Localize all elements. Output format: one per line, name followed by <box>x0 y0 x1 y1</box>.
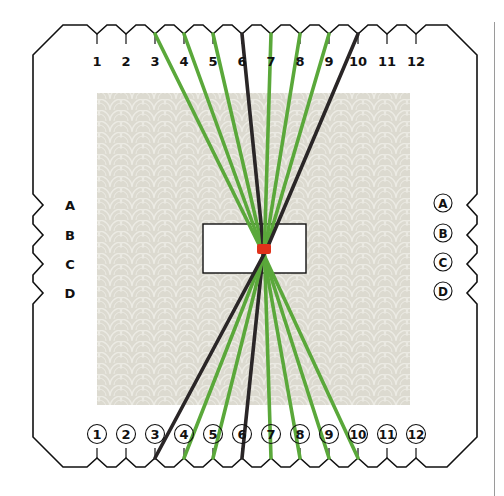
top-slot-label-9: 9 <box>324 54 333 69</box>
left-notch-label-C: C <box>65 257 75 272</box>
bottom-slot-label-12: 12 <box>408 428 425 442</box>
bottom-slot-label-4: 4 <box>179 427 188 442</box>
top-slot-label-7: 7 <box>266 54 275 69</box>
right-notch-labels: ABCD <box>434 194 452 300</box>
top-slot-label-11: 11 <box>378 54 396 69</box>
bottom-slot-label-7: 7 <box>266 427 275 442</box>
top-slot-label-6: 6 <box>237 54 246 69</box>
center-tie <box>257 244 271 254</box>
right-notch-label-B: B <box>438 227 447 241</box>
top-slot-label-2: 2 <box>121 54 130 69</box>
bottom-slot-label-6: 6 <box>237 427 246 442</box>
top-slot-label-3: 3 <box>150 54 159 69</box>
top-slot-labels: 123456789101112 <box>92 54 425 69</box>
top-slot-label-12: 12 <box>407 54 425 69</box>
loom-diagram: 123456789101112 123456789101112 ABCD ABC… <box>0 0 504 496</box>
right-notch-label-A: A <box>438 197 448 211</box>
right-notch-label-D: D <box>438 285 448 299</box>
bottom-slot-label-3: 3 <box>150 427 159 442</box>
bottom-slot-label-11: 11 <box>379 428 396 442</box>
bottom-slot-label-1: 1 <box>92 427 101 442</box>
loom-svg: 123456789101112 123456789101112 ABCD ABC… <box>0 0 504 496</box>
top-slot-label-8: 8 <box>295 54 304 69</box>
page-divider <box>494 22 495 496</box>
left-notch-label-B: B <box>65 228 75 243</box>
top-slot-label-4: 4 <box>179 54 188 69</box>
top-slot-label-10: 10 <box>349 54 367 69</box>
bottom-slot-label-5: 5 <box>208 427 217 442</box>
right-notch-label-C: C <box>439 256 448 270</box>
bottom-slot-label-2: 2 <box>121 427 130 442</box>
left-notch-labels: ABCD <box>65 198 76 301</box>
top-slot-label-5: 5 <box>208 54 217 69</box>
bottom-slot-labels: 123456789101112 <box>88 425 426 444</box>
bottom-slot-label-10: 10 <box>350 428 367 442</box>
bottom-slot-label-9: 9 <box>324 427 333 442</box>
left-notch-label-A: A <box>65 198 75 213</box>
top-slot-label-1: 1 <box>92 54 101 69</box>
left-notch-label-D: D <box>65 286 76 301</box>
bottom-slot-label-8: 8 <box>295 427 304 442</box>
